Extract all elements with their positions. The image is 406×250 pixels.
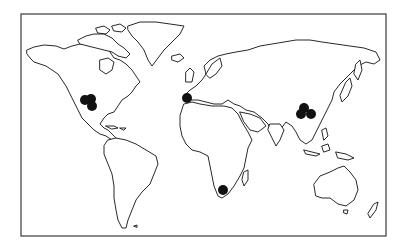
location-marker-iberian-peninsula	[182, 93, 192, 103]
location-marker-central-china	[306, 109, 316, 119]
location-marker-western-united-states	[87, 101, 97, 111]
indonesia-outline	[322, 144, 330, 152]
world-map	[0, 0, 406, 250]
location-marker-southern-africa	[218, 185, 228, 195]
location-marker-central-china	[296, 109, 306, 119]
tasmania-outline	[344, 210, 348, 214]
